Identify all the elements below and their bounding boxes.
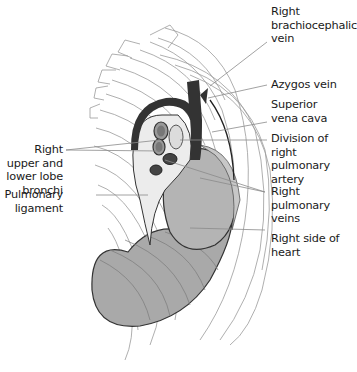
- label-superior-vena-cava: Superior vena cava: [271, 98, 327, 125]
- label-division-right-pulmonary-artery: Division of right pulmonary artery: [271, 132, 350, 186]
- label-pulmonary-ligament: Pulmonary ligament: [0, 188, 63, 215]
- label-right-side-of-heart: Right side of heart: [271, 232, 339, 259]
- label-right-pulmonary-veins: Right pulmonary veins: [271, 185, 350, 226]
- label-azygos-vein: Azygos vein: [271, 78, 337, 92]
- label-right-brachiocephalic-vein: Right brachiocephalic vein: [271, 5, 357, 46]
